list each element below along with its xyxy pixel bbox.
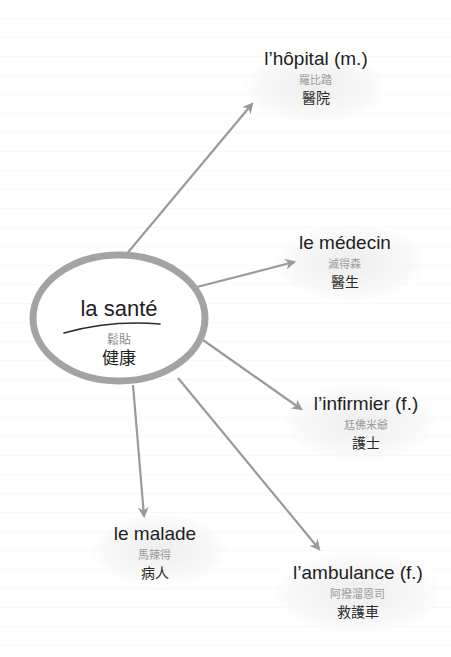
node-french: le médecin <box>299 232 391 254</box>
mind-map-diagram <box>0 0 451 657</box>
center-node: la santé 鬆貼 健康 <box>80 296 157 369</box>
node-french: l’hôpital (m.) <box>264 48 367 70</box>
node-chinese: 護士 <box>314 434 419 452</box>
node-infirmier: l’infirmier (f.) 尪佛米爺 護士 <box>314 393 419 452</box>
node-chinese: 病人 <box>114 564 196 582</box>
arrow-to-hopital <box>125 104 252 256</box>
node-phonetic: 馬辣得 <box>114 547 196 563</box>
center-chinese: 健康 <box>80 349 157 369</box>
node-malade: le malade 馬辣得 病人 <box>114 523 196 582</box>
node-phonetic: 阿撥溜恩司 <box>293 586 423 602</box>
node-ambulance: l’ambulance (f.) 阿撥溜恩司 救護車 <box>293 562 423 621</box>
node-chinese: 救護車 <box>293 603 423 621</box>
node-medecin: le médecin 滅得森 醫生 <box>299 232 391 291</box>
arrow-to-medecin <box>193 262 294 288</box>
node-phonetic: 滅得森 <box>299 256 391 272</box>
node-chinese: 醫生 <box>299 273 391 291</box>
arrow-to-malade <box>133 385 144 516</box>
arrow-to-infirmier <box>203 340 301 409</box>
node-chinese: 醫院 <box>264 89 367 107</box>
node-french: le malade <box>114 523 196 545</box>
arrow-to-ambulance <box>178 378 319 549</box>
node-french: l’ambulance (f.) <box>293 562 423 584</box>
center-phonetic: 鬆貼 <box>80 332 157 348</box>
node-hopital: l’hôpital (m.) 羅比踏 醫院 <box>264 48 367 107</box>
node-phonetic: 羅比踏 <box>264 72 367 88</box>
center-french: la santé <box>80 296 157 322</box>
node-phonetic: 尪佛米爺 <box>314 417 419 433</box>
node-french: l’infirmier (f.) <box>314 393 419 415</box>
